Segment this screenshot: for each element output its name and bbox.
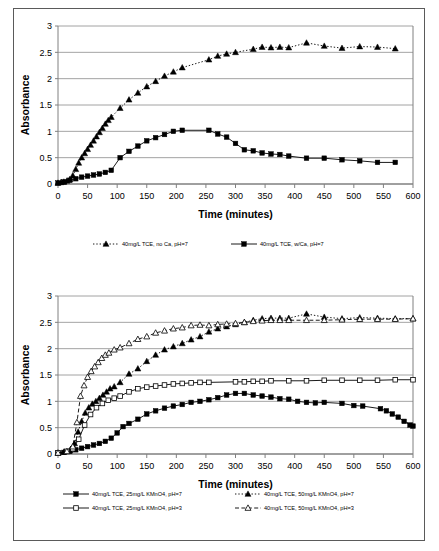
x-tick-label: 550	[376, 191, 391, 201]
data-marker-square-open	[411, 377, 416, 382]
data-marker-triangle-filled	[153, 352, 159, 357]
data-marker-square-filled	[109, 168, 114, 173]
chart-legend: 40mg/L TCE, no Ca, pH=740mg/L TCE, w/Ca,…	[93, 241, 324, 247]
data-marker-square-filled	[136, 417, 141, 422]
data-marker-triangle-filled	[277, 44, 283, 49]
data-marker-triangle-filled	[224, 51, 230, 56]
data-marker-square-filled	[180, 402, 185, 407]
data-marker-square-open	[251, 379, 256, 384]
data-marker-square-filled	[224, 135, 229, 140]
data-marker-square-filled	[74, 492, 79, 497]
series-line	[58, 393, 413, 453]
y-axis-ticks: 00.511.522.53	[39, 21, 58, 189]
data-marker-square-filled	[180, 128, 185, 133]
chart-top-canvas: 00.511.522.53050100150200250300350400450…	[13, 8, 425, 270]
data-marker-square-filled	[402, 419, 407, 424]
data-marker-square-filled	[357, 159, 362, 164]
x-tick-label: 0	[55, 191, 60, 201]
data-marker-triangle-open	[144, 333, 150, 338]
y-tick-label: 1.5	[39, 370, 52, 380]
x-tick-label: 50	[83, 191, 93, 201]
data-marker-square-open	[304, 378, 309, 383]
data-marker-square-filled	[115, 431, 120, 436]
data-marker-square-filled	[251, 393, 256, 398]
data-marker-triangle-open	[188, 322, 194, 327]
data-marker-square-filled	[144, 412, 149, 417]
legend-label: 40mg/L TCE, 25mg/L KMnO4, pH=3	[92, 505, 182, 511]
y-tick-label: 2.5	[39, 318, 52, 328]
x-tick-label: 300	[228, 461, 243, 471]
data-marker-triangle-filled	[304, 40, 310, 45]
data-marker-square-filled	[56, 181, 61, 186]
data-marker-square-open	[189, 381, 194, 386]
data-marker-triangle-open	[74, 419, 80, 424]
y-tick-label: 2.5	[39, 48, 52, 58]
x-axis-ticks: 050100150200250300350400450500550600	[55, 454, 420, 471]
data-marker-triangle-filled	[250, 46, 256, 51]
data-marker-square-filled	[340, 401, 345, 406]
data-marker-square-open	[136, 386, 141, 391]
y-tick-label: 1	[47, 397, 52, 407]
data-marker-triangle-filled	[321, 43, 327, 48]
data-marker-square-filled	[233, 391, 238, 396]
data-marker-triangle-open	[233, 320, 239, 325]
data-marker-square-open	[242, 380, 247, 385]
data-marker-square-open	[112, 396, 117, 401]
data-marker-square-filled	[189, 400, 194, 405]
series-line	[58, 319, 413, 453]
data-marker-square-filled	[162, 406, 167, 411]
data-marker-square-filled	[295, 399, 300, 404]
data-marker-square-filled	[260, 394, 265, 399]
data-marker-square-filled	[393, 160, 398, 165]
data-marker-square-open	[162, 383, 167, 388]
data-marker-square-filled	[215, 395, 220, 400]
data-marker-square-filled	[313, 401, 318, 406]
data-marker-square-filled	[242, 391, 247, 396]
x-tick-label: 600	[405, 191, 420, 201]
y-tick-label: 0	[47, 449, 52, 459]
series-layer	[55, 311, 416, 456]
data-marker-square-filled	[162, 132, 167, 137]
data-marker-square-filled	[121, 424, 126, 429]
data-marker-square-filled	[269, 395, 274, 400]
data-marker-square-filled	[286, 397, 291, 402]
data-marker-triangle-filled	[111, 383, 117, 388]
x-tick-label: 500	[346, 191, 361, 201]
data-marker-square-filled	[207, 397, 212, 402]
data-marker-square-filled	[103, 439, 108, 444]
data-marker-triangle-filled	[357, 43, 363, 48]
data-marker-square-open	[171, 382, 176, 387]
data-marker-square-open	[106, 398, 111, 403]
chart-absorbance-vs-time-permanganate: 00.511.522.53050100150200250300350400450…	[13, 278, 425, 540]
x-axis-title: Time (minutes)	[198, 208, 272, 220]
data-marker-square-open	[322, 378, 327, 383]
data-marker-square-filled	[85, 174, 90, 179]
data-marker-square-filled	[269, 152, 274, 157]
y-tick-label: 0	[47, 179, 52, 189]
x-tick-label: 450	[317, 461, 332, 471]
series-1	[55, 40, 398, 186]
x-tick-label: 500	[346, 461, 361, 471]
data-marker-square-filled	[85, 444, 90, 449]
data-marker-square-open	[88, 412, 93, 417]
data-marker-square-open	[153, 384, 158, 389]
y-tick-label: 3	[47, 21, 52, 31]
data-marker-triangle-filled	[126, 97, 132, 102]
x-tick-label: 150	[139, 461, 154, 471]
data-marker-square-filled	[153, 409, 158, 414]
data-marker-square-filled	[360, 404, 365, 409]
data-marker-triangle-filled	[144, 83, 150, 88]
data-marker-triangle-filled	[162, 73, 168, 78]
data-marker-square-open	[76, 437, 81, 442]
x-tick-label: 450	[317, 191, 332, 201]
x-tick-label: 200	[169, 461, 184, 471]
data-marker-square-filled	[79, 175, 84, 180]
data-marker-square-filled	[304, 400, 309, 405]
data-marker-square-filled	[79, 446, 84, 451]
data-marker-square-open	[286, 378, 291, 383]
data-marker-square-open	[260, 379, 265, 384]
chart-bottom-canvas: 00.511.522.53050100150200250300350400450…	[13, 278, 425, 540]
data-marker-triangle-open	[77, 393, 83, 398]
data-marker-square-filled	[242, 242, 247, 247]
data-marker-square-filled	[224, 393, 229, 398]
